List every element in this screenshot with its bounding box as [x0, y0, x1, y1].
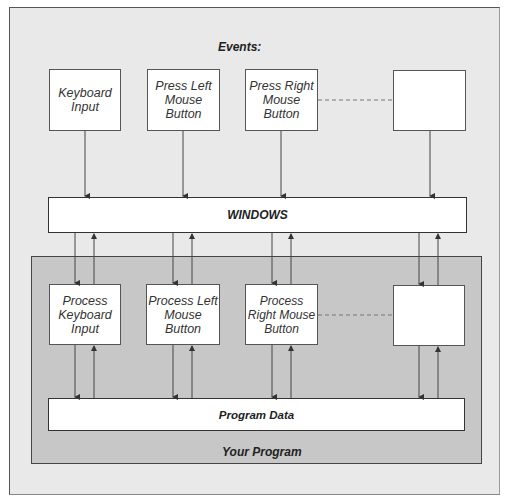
connector-arrows	[0, 0, 510, 503]
